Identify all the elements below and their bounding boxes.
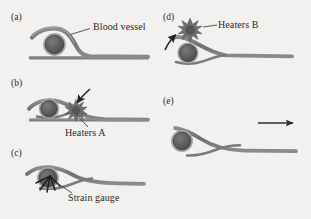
callout-strain-gauge: Strain gauge [68, 192, 119, 203]
panel-tag-c: (c) [11, 148, 22, 158]
panel-tag-e: (e) [163, 96, 174, 106]
figure-canvas [0, 0, 311, 219]
panel-tag-a: (a) [11, 12, 22, 22]
panel-tag-b: (b) [11, 78, 22, 88]
callout-heaters-a: Heaters A [65, 127, 106, 138]
panel-tag-d: (d) [163, 12, 174, 22]
callout-heaters-b: Heaters B [218, 19, 259, 30]
callout-blood-vessel: Blood vessel [93, 21, 146, 32]
